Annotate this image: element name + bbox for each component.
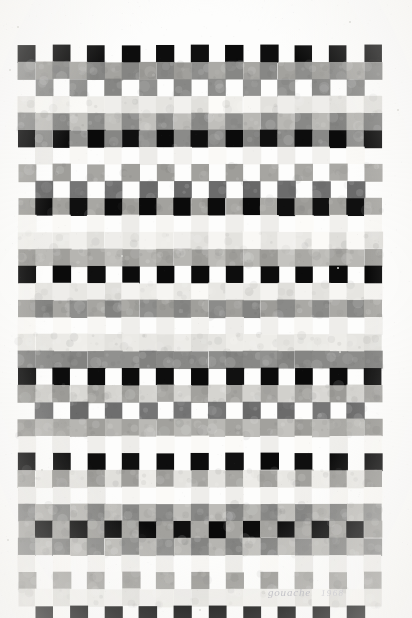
date-label: 1968 bbox=[321, 588, 345, 598]
paper-speck bbox=[397, 109, 399, 111]
paper-speck bbox=[199, 609, 201, 611]
paper-speck bbox=[41, 469, 43, 471]
paper-speck bbox=[349, 21, 351, 23]
paper-speck bbox=[7, 539, 9, 541]
artist-annotation: gouache1968 bbox=[268, 586, 344, 598]
medium-label: gouache bbox=[268, 586, 311, 598]
artwork-canvas: gouache1968 bbox=[0, 0, 412, 618]
paper-speck bbox=[339, 351, 341, 353]
paper-speck bbox=[337, 267, 339, 269]
paper-speck bbox=[9, 69, 11, 71]
grid-painting bbox=[0, 0, 412, 618]
